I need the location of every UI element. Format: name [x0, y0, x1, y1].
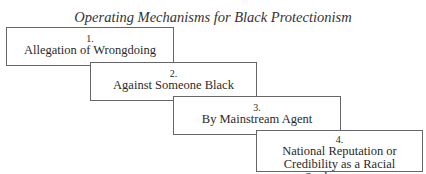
step-box-4: 4. National Reputation or Credibility as… [256, 130, 423, 172]
step-label: Allegation of Wrongdoing [24, 43, 156, 57]
step-label: By Mainstream Agent [202, 112, 312, 126]
step-label-line-2: Credibility as a Racial Spokesperson [257, 158, 422, 174]
step-label: Against Someone Black [113, 78, 234, 92]
diagram-title: Operating Mechanisms for Black Protectio… [0, 9, 426, 26]
step-box-1: 1. Allegation of Wrongdoing [6, 27, 174, 66]
